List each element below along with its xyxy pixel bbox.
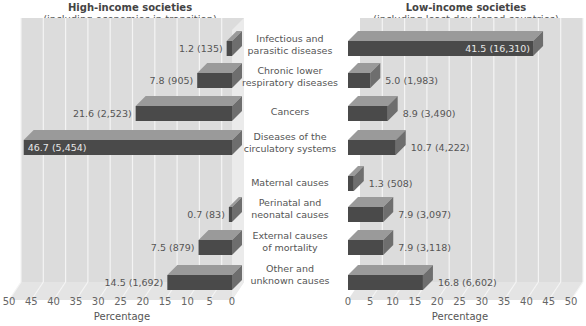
right-bar-top bbox=[348, 130, 406, 140]
left-bar-top bbox=[167, 265, 242, 275]
right-bar-top bbox=[348, 31, 543, 41]
category-label-line: neonatal causes bbox=[238, 209, 342, 221]
right-bar-value: 41.5 (16,310) bbox=[465, 43, 530, 54]
left-axis-tick: 35 bbox=[70, 296, 83, 307]
left-axis-tick: 15 bbox=[159, 296, 172, 307]
category-label: Infectious andparasitic diseases bbox=[238, 33, 342, 57]
right-axis-tick: 0 bbox=[345, 296, 351, 307]
left-bar bbox=[167, 275, 232, 290]
category-label-line: Chronic lower bbox=[238, 65, 342, 77]
left-axis-tick: 50 bbox=[3, 296, 16, 307]
category-label-line: Maternal causes bbox=[238, 177, 342, 189]
right-axis-tick: 35 bbox=[498, 296, 511, 307]
right-bar bbox=[348, 73, 370, 88]
left-axis-tick: 45 bbox=[25, 296, 38, 307]
right-axis-tick: 25 bbox=[453, 296, 466, 307]
category-label-line: Cancers bbox=[238, 106, 342, 118]
right-axis-tick: 50 bbox=[565, 296, 578, 307]
left-axis-tick: 0 bbox=[229, 296, 235, 307]
right-bar-value: 1.3 (508) bbox=[369, 178, 413, 189]
category-label-line: unknown causes bbox=[238, 275, 342, 287]
right-axis-tick: 30 bbox=[475, 296, 488, 307]
left-axis-label: Percentage bbox=[72, 311, 172, 322]
right-axis-tick: 10 bbox=[386, 296, 399, 307]
right-bar-value: 7.9 (3,118) bbox=[398, 242, 451, 253]
left-axis-tick: 25 bbox=[114, 296, 127, 307]
right-axis-tick: 45 bbox=[542, 296, 555, 307]
left-bar bbox=[197, 73, 232, 88]
category-label-line: Other and bbox=[238, 263, 342, 275]
category-label-line: circulatory systems bbox=[238, 143, 342, 155]
category-label: Perinatal andneonatal causes bbox=[238, 197, 342, 221]
left-bar-value: 7.8 (905) bbox=[150, 75, 194, 86]
left-bar-value: 0.7 (83) bbox=[187, 209, 225, 220]
category-label-line: parasitic diseases bbox=[238, 45, 342, 57]
left-bar bbox=[229, 207, 232, 222]
category-label: Maternal causes bbox=[238, 177, 342, 189]
right-bar bbox=[348, 176, 354, 191]
right-axis-tick: 5 bbox=[367, 296, 373, 307]
right-bar bbox=[348, 240, 383, 255]
category-label: Chronic lowerrespiratory diseases bbox=[238, 65, 342, 89]
right-bar-value: 5.0 (1,983) bbox=[385, 75, 438, 86]
right-axis-tick: 15 bbox=[409, 296, 422, 307]
category-label: Other andunknown causes bbox=[238, 263, 342, 287]
left-bar-value: 14.5 (1,692) bbox=[105, 277, 164, 288]
category-label: Diseases of thecirculatory systems bbox=[238, 131, 342, 155]
right-bar-top bbox=[348, 265, 433, 275]
left-bar-top bbox=[136, 96, 242, 106]
right-axis-tick: 20 bbox=[431, 296, 444, 307]
left-bar bbox=[199, 240, 232, 255]
right-bar bbox=[348, 106, 388, 121]
right-axis-tick: 40 bbox=[520, 296, 533, 307]
right-bar-value: 8.9 (3,490) bbox=[403, 108, 456, 119]
right-bar-value: 16.8 (6,602) bbox=[438, 277, 497, 288]
right-bar bbox=[348, 275, 423, 290]
left-side-wall bbox=[232, 18, 244, 300]
left-bar-value: 1.2 (135) bbox=[179, 43, 223, 54]
category-label-line: Diseases of the bbox=[238, 131, 342, 143]
category-label-line: Infectious and bbox=[238, 33, 342, 45]
left-bar bbox=[227, 41, 232, 56]
category-label-line: Perinatal and bbox=[238, 197, 342, 209]
right-bar-value: 7.9 (3,097) bbox=[398, 209, 451, 220]
left-bar-value: 7.5 (879) bbox=[151, 242, 195, 253]
right-bar-value: 10.7 (4,222) bbox=[411, 142, 470, 153]
right-bar bbox=[348, 140, 396, 155]
left-axis-tick: 5 bbox=[207, 296, 213, 307]
left-bar-top bbox=[24, 130, 242, 140]
category-label: External causesof mortality bbox=[238, 230, 342, 254]
category-label: Cancers bbox=[238, 106, 342, 118]
right-axis-label: Percentage bbox=[410, 311, 510, 322]
left-bar-value: 21.6 (2,523) bbox=[73, 108, 132, 119]
left-axis-tick: 20 bbox=[136, 296, 149, 307]
category-label-line: respiratory diseases bbox=[238, 77, 342, 89]
left-bar bbox=[136, 106, 232, 121]
category-label-line: External causes bbox=[238, 230, 342, 242]
left-axis-tick: 10 bbox=[181, 296, 194, 307]
category-label-line: of mortality bbox=[238, 242, 342, 254]
right-bar bbox=[348, 207, 383, 222]
left-axis-tick: 30 bbox=[92, 296, 105, 307]
left-bar-value: 46.7 (5,454) bbox=[28, 142, 87, 153]
left-axis-tick: 40 bbox=[47, 296, 60, 307]
